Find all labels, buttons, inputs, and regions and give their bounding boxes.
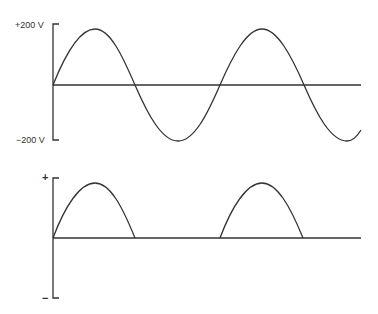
- top-chart: [53, 24, 361, 141]
- waveform-diagram: [0, 0, 378, 314]
- top-max-label: +200 V: [15, 20, 44, 30]
- rectified-hump-1: [53, 183, 135, 238]
- bottom-plus-label: +: [42, 171, 48, 183]
- rectified-hump-2: [220, 183, 303, 238]
- bottom-chart: [53, 178, 361, 298]
- top-min-label: −200 V: [16, 135, 45, 145]
- bottom-minus-label: −: [42, 292, 48, 304]
